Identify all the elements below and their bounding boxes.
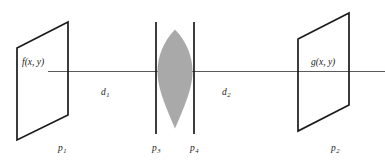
distance-label-d1: d1 (101, 88, 109, 98)
diagram-canvas (0, 0, 385, 164)
plane-label-p4: p4 (190, 144, 198, 154)
plane-label-p2: p2 (331, 144, 339, 154)
plane-p2-subscript: 2 (336, 147, 340, 154)
distance-d2-subscript: 2 (227, 91, 231, 98)
optical-system-diagram: f(x, y) g(x, y) d1 d2 p1 p3 p4 p2 (0, 0, 385, 164)
plane-label-p1: p1 (58, 144, 66, 154)
plane-p1-subscript: 1 (63, 147, 67, 154)
plane-p3-subscript: 3 (157, 147, 161, 154)
distance-label-d2: d2 (222, 88, 230, 98)
biconvex-lens-icon (158, 30, 193, 129)
input-plane-p1 (17, 22, 68, 140)
input-field-label: f(x, y) (22, 58, 44, 68)
plane-p4-subscript: 4 (195, 147, 199, 154)
distance-d1-subscript: 1 (106, 91, 110, 98)
output-field-label: g(x, y) (311, 58, 335, 68)
plane-label-p3: p3 (152, 144, 160, 154)
